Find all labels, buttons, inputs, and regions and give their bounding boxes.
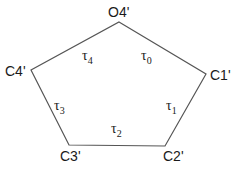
torsion-label-tau4: τ4 [82, 48, 93, 66]
pentose-ring-diagram: O4' C1' C2' C3' C4' τ0 τ1 τ2 τ3 τ4 [0, 0, 236, 169]
atom-label-c2: C2' [163, 148, 184, 164]
atom-label-o4: O4' [108, 4, 129, 20]
torsion-label-tau2: τ2 [111, 121, 122, 139]
torsion-label-tau3: τ3 [54, 98, 65, 116]
torsion-label-tau0: τ0 [141, 48, 152, 66]
torsion-label-tau1: τ1 [166, 98, 177, 116]
atom-label-c4: C4' [5, 63, 26, 79]
atom-label-c1: C1' [210, 67, 231, 83]
atom-label-c3: C3' [60, 148, 81, 164]
